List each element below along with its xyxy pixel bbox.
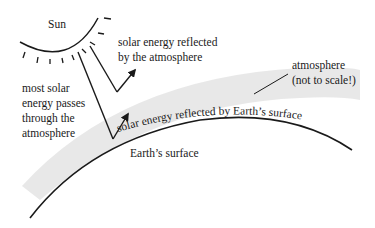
atmosphere-label-1: atmosphere bbox=[292, 59, 345, 72]
reflected-atmosphere-label-2: by the atmosphere bbox=[118, 51, 202, 64]
ray-to-atmosphere bbox=[90, 46, 117, 92]
passes-label-4: atmosphere bbox=[22, 127, 75, 140]
sun-label: Sun bbox=[48, 18, 66, 30]
reflected-atmosphere-label-1: solar energy reflected bbox=[118, 36, 218, 49]
atmosphere-label-2: (not to scale!) bbox=[292, 74, 356, 87]
solar-energy-diagram: Sun solar energy reflected by the atmosp… bbox=[0, 0, 375, 228]
passes-label-2: energy passes bbox=[22, 97, 86, 110]
passes-label-1: most solar bbox=[22, 82, 70, 94]
sun-rays bbox=[23, 18, 111, 64]
passes-label-3: through the bbox=[22, 112, 75, 125]
ray-reflected-atmosphere bbox=[117, 70, 135, 92]
earth-surface-label: Earth’s surface bbox=[130, 147, 199, 159]
